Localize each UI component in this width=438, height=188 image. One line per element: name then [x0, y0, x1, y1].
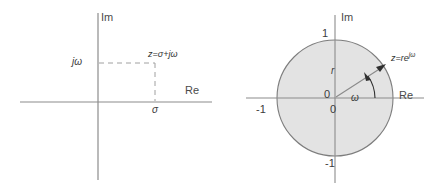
left-imaginary-axis-label: Im: [101, 12, 113, 23]
right-point-label-base: z=re: [391, 53, 409, 63]
imaginary-tick-label-negative-one: -1: [325, 158, 335, 169]
left-real-coordinate-label: σ: [152, 105, 158, 115]
radius-label: r: [331, 66, 334, 76]
right-real-axis-label: Re: [399, 90, 413, 101]
right-point-label: z=rejω: [391, 52, 415, 63]
left-real-axis-label: Re: [185, 85, 199, 96]
right-plane-group: [246, 15, 424, 183]
complex-plane-figure: Im Re jω σ z=σ+jω Im Re 1 -1 -1 0 0 r ω …: [0, 0, 438, 188]
origin-label-lower: 0: [330, 104, 336, 115]
angle-label: ω: [351, 93, 359, 103]
figure-canvas: [0, 0, 438, 188]
real-tick-label-negative-one: -1: [256, 104, 266, 115]
left-imaginary-coordinate-label: jω: [72, 57, 82, 67]
right-imaginary-axis-label: Im: [341, 12, 353, 23]
left-plane-group: [20, 13, 212, 180]
imaginary-tick-label-positive-one: 1: [322, 28, 328, 39]
origin-label-upper: 0: [324, 89, 330, 100]
right-point-label-exponent: jω: [409, 51, 416, 58]
left-point-label: z=σ+jω: [148, 50, 177, 59]
